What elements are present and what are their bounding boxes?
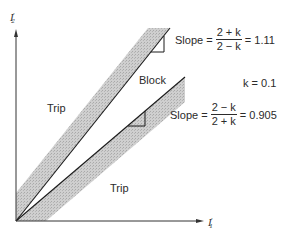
upper-slope-denominator: 2 − k bbox=[217, 40, 241, 52]
upper-slope-formula: Slope = 2 + k 2 − k = 1.11 bbox=[175, 27, 275, 52]
lower-slope-numerator: 2 − k bbox=[211, 102, 237, 115]
lower-slope-prefix: Slope = bbox=[170, 109, 208, 121]
lower-slope-denominator: 2 + k bbox=[212, 115, 236, 127]
lower-slope-formula: Slope = 2 − k 2 + k = 0.905 bbox=[170, 102, 277, 127]
y-axis-label-sub: 2 bbox=[11, 17, 15, 25]
x-axis-label-sub: 1 bbox=[209, 222, 213, 230]
upper-slope-fraction: 2 + k 2 − k bbox=[216, 27, 242, 52]
x-axis-arrow-icon bbox=[196, 219, 204, 223]
x-axis-label: I′1 bbox=[208, 215, 213, 232]
lower-slope-fraction: 2 − k 2 + k bbox=[211, 102, 237, 127]
trip-region-lower-label: Trip bbox=[110, 182, 129, 194]
y-axis-arrow-icon bbox=[14, 29, 18, 37]
k-value-label: k = 0.1 bbox=[243, 77, 276, 89]
upper-slope-numerator: 2 + k bbox=[216, 27, 242, 40]
upper-slope-result: = 1.11 bbox=[245, 34, 275, 46]
y-axis-label: I′2 bbox=[10, 10, 15, 27]
upper-slope-prefix: Slope = bbox=[175, 34, 213, 46]
lower-slope-result: = 0.905 bbox=[240, 109, 277, 121]
block-region-label: Block bbox=[139, 74, 166, 86]
trip-region-upper-label: Trip bbox=[47, 102, 66, 114]
